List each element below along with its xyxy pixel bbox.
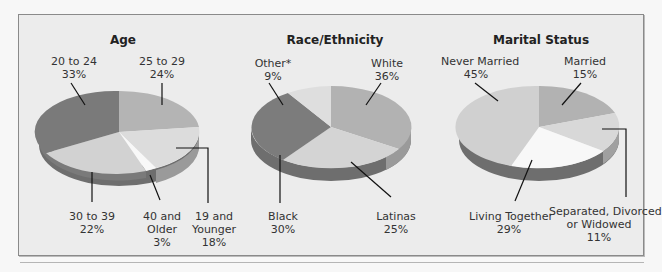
label-other: Other*9% bbox=[251, 57, 295, 83]
label-latinas: Latinas25% bbox=[369, 210, 423, 236]
marital-status-title: Marital Status bbox=[437, 33, 645, 47]
label-20-to-24: 20 to 2433% bbox=[49, 55, 99, 81]
slice-25-to-29 bbox=[119, 91, 199, 132]
label-living-together: Living Together29% bbox=[469, 210, 549, 236]
label-40-and-older: 40 andOlder3% bbox=[137, 210, 187, 249]
label-never-married: Never Married45% bbox=[441, 55, 511, 81]
chart-frame: Age 20 to 2433% 25 to 2924% 30 to 3922% … bbox=[18, 14, 644, 256]
race-ethnicity-title: Race/Ethnicity bbox=[231, 33, 439, 47]
age-title: Age bbox=[19, 33, 227, 47]
label-married: Married15% bbox=[559, 55, 611, 81]
bottom-divider bbox=[20, 262, 644, 263]
race-ethnicity-pie-panel: Race/Ethnicity Other*9% White36% Black30… bbox=[231, 15, 439, 255]
label-separated-divorced-widowed: Separated, Divorced,or Widowed11% bbox=[549, 205, 649, 244]
label-25-to-29: 25 to 2924% bbox=[137, 55, 187, 81]
age-pie-panel: Age 20 to 2433% 25 to 2924% 30 to 3922% … bbox=[19, 15, 227, 255]
label-black: Black30% bbox=[261, 210, 305, 236]
label-white: White36% bbox=[365, 57, 409, 83]
label-30-to-39: 30 to 3922% bbox=[64, 210, 120, 236]
marital-status-pie-panel: Marital Status Never Married45% Married1… bbox=[437, 15, 645, 255]
